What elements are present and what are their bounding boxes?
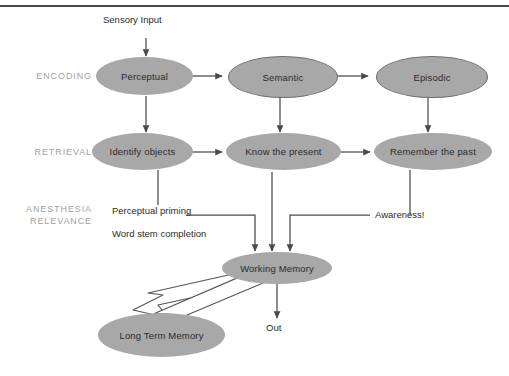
- node-identify-objects[interactable]: Identify objects: [92, 133, 193, 170]
- gutter-label-anesthesia-relevance: ANESTHESIA RELEVANCE: [8, 203, 92, 227]
- node-long-term-memory[interactable]: Long Term Memory: [98, 313, 225, 357]
- caption-out: Out: [266, 322, 281, 333]
- node-know-the-present-label: Know the present: [245, 146, 321, 157]
- node-long-term-memory-label: Long Term Memory: [119, 330, 203, 341]
- node-working-memory-label: Working Memory: [240, 263, 314, 274]
- node-semantic[interactable]: Semantic: [228, 56, 338, 98]
- node-semantic-label: Semantic: [263, 72, 304, 83]
- caption-awareness: Awareness!: [375, 209, 424, 220]
- node-perceptual-label: Perceptual: [121, 71, 168, 82]
- caption-perceptual-priming: Perceptual priming: [112, 205, 191, 216]
- caption-sensory-input: Sensory Input: [103, 14, 162, 25]
- node-remember-the-past[interactable]: Remember the past: [374, 133, 492, 170]
- node-episodic-label: Episodic: [413, 72, 450, 83]
- node-identify-objects-label: Identify objects: [110, 146, 176, 157]
- gutter-label-encoding: ENCODING: [14, 70, 92, 82]
- gutter-label-retrieval: RETRIEVAL: [14, 146, 92, 158]
- arrow-awareness-to-working-memory: [290, 215, 370, 251]
- diagram-canvas: ENCODING RETRIEVAL ANESTHESIA RELEVANCE …: [0, 0, 509, 376]
- node-episodic[interactable]: Episodic: [376, 56, 488, 98]
- node-perceptual[interactable]: Perceptual: [96, 57, 193, 95]
- node-remember-the-past-label: Remember the past: [390, 146, 476, 157]
- caption-word-stem-completion: Word stem completion: [112, 228, 206, 239]
- node-working-memory[interactable]: Working Memory: [222, 252, 332, 284]
- node-know-the-present[interactable]: Know the present: [226, 133, 341, 170]
